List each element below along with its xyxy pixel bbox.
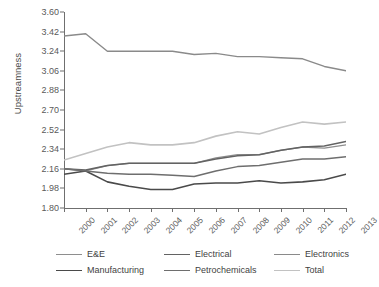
- x-tick-label: 2002: [120, 215, 140, 235]
- x-tick-mark: [86, 208, 87, 212]
- x-tick-label: 2006: [207, 215, 227, 235]
- x-tick-label: 2013: [359, 215, 379, 235]
- x-tick-mark: [151, 208, 152, 212]
- x-tick-mark: [107, 208, 108, 212]
- x-tick-mark: [259, 208, 260, 212]
- x-tick-mark: [216, 208, 217, 212]
- legend-swatch-electrical: [164, 254, 190, 255]
- legend-swatch-total: [274, 270, 300, 271]
- legend-label-manufacturing: Manufacturing: [87, 265, 144, 275]
- x-tick-mark: [303, 208, 304, 212]
- legend-label-electrical: Electrical: [195, 249, 232, 259]
- x-tick-mark: [64, 208, 65, 212]
- legend-item-petrochemicals[interactable]: Petrochemicals: [164, 265, 274, 275]
- x-tick-label: 2011: [315, 215, 335, 235]
- legend-label-petrochemicals: Petrochemicals: [195, 265, 257, 275]
- y-axis-title: Upstreamness: [12, 39, 23, 129]
- legend-swatch-manufacturing: [56, 270, 82, 271]
- x-tick-mark: [172, 208, 173, 212]
- series-line-total: [64, 122, 346, 160]
- x-tick-mark: [129, 208, 130, 212]
- x-tick-mark: [281, 208, 282, 212]
- x-tick-mark: [194, 208, 195, 212]
- legend-label-total: Total: [305, 265, 324, 275]
- legend-item-e-e[interactable]: E&E: [56, 249, 164, 259]
- x-tick-label: 2010: [293, 215, 313, 235]
- series-line-petrochemicals: [64, 157, 346, 177]
- x-tick-label: 2009: [272, 215, 292, 235]
- legend-swatch-electronics: [274, 254, 300, 255]
- x-tick-label: 2012: [337, 215, 357, 235]
- x-tick-label: 2001: [98, 215, 118, 235]
- plot-area: 1.801.982.162.342.522.702.883.063.243.42…: [64, 12, 346, 208]
- legend-swatch-e-e: [56, 254, 82, 255]
- legend-label-electronics: Electronics: [305, 249, 349, 259]
- legend-item-total[interactable]: Total: [274, 265, 370, 275]
- series-line-electrical: [64, 142, 346, 170]
- legend-swatch-petrochemicals: [164, 270, 190, 271]
- legend-item-manufacturing[interactable]: Manufacturing: [56, 265, 164, 275]
- x-axis-line: [64, 208, 346, 209]
- x-tick-label: 2000: [77, 215, 97, 235]
- x-tick-label: 2007: [228, 215, 248, 235]
- x-tick-label: 2003: [142, 215, 162, 235]
- x-tick-mark: [238, 208, 239, 212]
- x-tick-label: 2005: [185, 215, 205, 235]
- x-tick-label: 2004: [163, 215, 183, 235]
- legend-item-electronics[interactable]: Electronics: [274, 249, 370, 259]
- series-line-electronics: [64, 34, 346, 71]
- series-lines: [64, 12, 346, 208]
- x-tick-label: 2008: [250, 215, 270, 235]
- legend-label-e-e: E&E: [87, 249, 105, 259]
- series-line-e-e: [64, 145, 346, 171]
- x-tick-mark: [324, 208, 325, 212]
- chart-legend: E&EElectricalElectronicsManufacturingPet…: [56, 246, 356, 278]
- x-tick-mark: [346, 208, 347, 212]
- legend-item-electrical[interactable]: Electrical: [164, 249, 274, 259]
